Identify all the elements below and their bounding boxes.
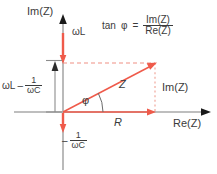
omega-l-label: ωL <box>72 27 85 37</box>
resistance-label: R <box>114 117 122 128</box>
reactance-denominator: ωC <box>25 86 43 95</box>
formula-fraction: Im(Z) Re(Z) <box>143 15 173 36</box>
phase-angle-arc <box>98 93 103 112</box>
capacitive-reactance-label: – 1 ωC <box>62 131 87 150</box>
phase-angle-label: φ <box>82 95 89 106</box>
real-axis-arrowhead <box>201 108 211 116</box>
reactance-bracket-label: ωL – 1 ωC <box>2 76 42 95</box>
capacitive-fraction: 1 ωC <box>70 131 88 150</box>
formula-equals-sign: = <box>132 21 138 31</box>
capacitive-minus-sign: – <box>62 136 68 146</box>
reactance-bracket-arrowhead <box>52 61 59 71</box>
impedance-phasor-diagram: Im(Z) Re(Z) ωL Z φ R Im(Z) ωL – 1 ωC – 1… <box>0 0 217 174</box>
imaginary-component-label: Im(Z) <box>162 82 188 93</box>
impedance-vector-label: Z <box>119 79 126 90</box>
reactance-omega-l-term: ωL <box>2 81 15 91</box>
capacitive-denominator: ωC <box>70 141 88 150</box>
reactance-fraction: 1 ωC <box>25 76 43 95</box>
imaginary-axis-label: Im(Z) <box>27 6 53 17</box>
reactance-minus-sign: – <box>17 81 23 91</box>
formula-tan-word: tan <box>102 21 116 31</box>
real-axis-label: Re(Z) <box>173 118 201 129</box>
tangent-formula: tan φ = Im(Z) Re(Z) <box>102 15 173 36</box>
imaginary-axis-arrowhead <box>59 14 67 24</box>
impedance-vector-line <box>63 67 150 113</box>
formula-phi-symbol: φ <box>121 21 127 31</box>
formula-denominator: Re(Z) <box>143 26 173 36</box>
